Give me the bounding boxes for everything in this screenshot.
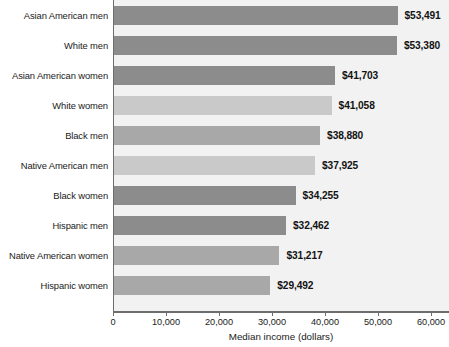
category-label: Native American men: [0, 150, 108, 180]
bar: [114, 66, 335, 85]
bar-value-label: $38,880: [327, 130, 363, 141]
category-label: White women: [0, 90, 108, 120]
bar: [114, 156, 315, 175]
bar-row: Black men$38,880: [0, 120, 449, 150]
bar-value-label: $53,380: [404, 40, 440, 51]
bar-row: White women$41,058: [0, 90, 449, 120]
bar-row: Native American men$37,925: [0, 150, 449, 180]
bar-chart: Asian American men$53,491White men$53,38…: [0, 0, 449, 347]
bar-and-value: $34,255: [114, 180, 339, 210]
x-tick-mark: [272, 311, 273, 316]
category-label: Black women: [0, 180, 108, 210]
category-label: Native American women: [0, 240, 108, 270]
bar-row: Hispanic men$32,462: [0, 210, 449, 240]
category-label: Asian American men: [0, 0, 108, 30]
x-tick-mark: [113, 311, 114, 316]
bar-value-label: $31,217: [286, 250, 322, 261]
bar-and-value: $31,217: [114, 240, 323, 270]
bar: [114, 246, 279, 265]
bar-row: Black women$34,255: [0, 180, 449, 210]
bar-row: White men$53,380: [0, 30, 449, 60]
x-tick-label: 30,000: [258, 317, 286, 327]
x-tick-label: 40,000: [311, 317, 339, 327]
bar: [114, 96, 332, 115]
bar-row: Hispanic women$29,492: [0, 270, 449, 300]
bar: [114, 126, 320, 145]
bar: [114, 276, 270, 295]
bar-and-value: $29,492: [114, 270, 313, 300]
category-label: Hispanic women: [0, 270, 108, 300]
category-label: White men: [0, 30, 108, 60]
x-tick-label: 0: [110, 317, 115, 327]
bar: [114, 36, 397, 55]
bar-row: Asian American men$53,491: [0, 0, 449, 30]
bar: [114, 186, 296, 205]
bar-row: Native American women$31,217: [0, 240, 449, 270]
category-label: Asian American women: [0, 60, 108, 90]
x-tick-label: 60,000: [417, 317, 445, 327]
bar-value-label: $41,703: [342, 70, 378, 81]
category-label: Black men: [0, 120, 108, 150]
bar-and-value: $53,491: [114, 0, 441, 30]
bar-and-value: $53,380: [114, 30, 440, 60]
bar-and-value: $41,703: [114, 60, 378, 90]
bar-value-label: $34,255: [303, 190, 339, 201]
x-tick-label: 20,000: [205, 317, 233, 327]
x-tick-mark: [219, 311, 220, 316]
x-tick-mark: [378, 311, 379, 316]
bar-value-label: $32,462: [293, 220, 329, 231]
category-label: Hispanic men: [0, 210, 108, 240]
x-tick-mark: [431, 311, 432, 316]
x-axis-line: [113, 311, 449, 313]
x-axis-title: Median income (dollars): [113, 331, 449, 342]
x-tick-mark: [166, 311, 167, 316]
bar-value-label: $53,491: [405, 10, 441, 21]
bar-and-value: $38,880: [114, 120, 363, 150]
bar-value-label: $41,058: [339, 100, 375, 111]
x-tick-mark: [325, 311, 326, 316]
bar-value-label: $37,925: [322, 160, 358, 171]
bar-and-value: $37,925: [114, 150, 358, 180]
x-tick-label: 10,000: [152, 317, 180, 327]
x-tick-label: 50,000: [364, 317, 392, 327]
bar: [114, 216, 286, 235]
bar-value-label: $29,492: [277, 280, 313, 291]
bar: [114, 6, 398, 25]
bar-and-value: $32,462: [114, 210, 329, 240]
bar-row: Asian American women$41,703: [0, 60, 449, 90]
bar-and-value: $41,058: [114, 90, 375, 120]
